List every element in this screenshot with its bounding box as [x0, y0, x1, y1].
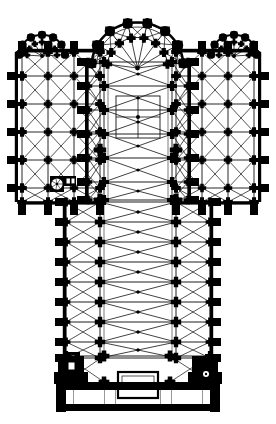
nave-keystone [136, 348, 139, 351]
west-front-wall [56, 382, 220, 390]
pier-core [207, 279, 212, 284]
portal-opening-0 [74, 390, 104, 404]
pier-core [97, 157, 103, 163]
choir-keystone [136, 144, 139, 147]
pier-core [173, 319, 179, 325]
pier-core [225, 157, 230, 162]
pier-core [63, 299, 68, 304]
apse-buttress-cap [122, 18, 132, 28]
south-transept-end-buttress [258, 128, 269, 136]
nave-keystone [136, 210, 139, 213]
north-transept-end-buttress [7, 156, 18, 164]
pier-core [97, 185, 103, 191]
pier-core [63, 339, 68, 344]
pier-core [173, 279, 179, 285]
pier-core [63, 353, 69, 359]
apse-keystone [135, 66, 140, 71]
pier-core [225, 185, 230, 190]
pier-core [219, 47, 223, 51]
pier-core [173, 259, 179, 265]
pier-core [45, 129, 50, 134]
pier-core [207, 299, 212, 304]
pier-core [173, 299, 179, 305]
pier-core [153, 40, 159, 46]
pier-core [207, 219, 212, 224]
south-apse-buttress-block [211, 41, 218, 48]
apse-buttress-cap [105, 26, 115, 36]
stair-turret-north-newel [56, 183, 59, 186]
pier-core [173, 339, 179, 345]
pier-core [173, 49, 179, 55]
pier-core [207, 259, 212, 264]
west-front-plinth [56, 404, 220, 411]
cathedral-plan-canvas [0, 0, 276, 424]
pier-core [251, 199, 257, 205]
pier-core [85, 83, 90, 88]
pier-core [19, 157, 25, 163]
pier-core [245, 47, 249, 51]
pier-core [173, 101, 179, 107]
south-apse-buttress-block [208, 51, 215, 58]
pier-core [207, 353, 213, 359]
nave-keystone [136, 330, 139, 333]
pier-core [185, 107, 190, 112]
pier-core [96, 196, 103, 203]
pier-core [173, 129, 179, 135]
nave-keystone [136, 250, 139, 253]
south-apse-buttress-block [242, 34, 249, 41]
pier-core [97, 279, 103, 285]
pier-core [225, 129, 230, 134]
pier-core [85, 131, 90, 136]
pier-core [47, 42, 51, 46]
pier-core [207, 319, 212, 324]
pier-core [45, 49, 51, 55]
north-apse-keystone [40, 54, 44, 58]
pier-core [199, 199, 205, 205]
south-apse-buttress-block [250, 41, 257, 48]
choir-keystone [136, 189, 139, 192]
north-apse-buttress-block [50, 34, 57, 41]
pier-core [225, 42, 229, 46]
pier-core [25, 53, 29, 57]
choir-keystone [136, 168, 139, 171]
north-apse-buttress-block [28, 34, 35, 41]
pier-core [40, 40, 44, 44]
pier-core [251, 157, 257, 163]
pier-core [55, 53, 59, 57]
pier-core [96, 146, 103, 153]
south-apse-keystone [232, 54, 236, 58]
pier-core [53, 47, 57, 51]
pier-core [97, 73, 103, 79]
pier-core [128, 35, 134, 41]
pier-core [173, 73, 179, 79]
pier-core [27, 47, 31, 51]
pier-core [199, 157, 204, 162]
pier-core [63, 279, 68, 284]
south-apse-buttress-block [231, 31, 238, 38]
pier-core [185, 131, 190, 136]
pier-core [185, 59, 190, 64]
pier-core [199, 49, 205, 55]
portal-opening-2 [172, 390, 202, 404]
pier-core [167, 353, 173, 359]
pier-core [199, 73, 204, 78]
pier-core [199, 185, 204, 190]
south-transept-end-buttress [258, 72, 269, 80]
pier-core [45, 199, 51, 205]
pier-core [169, 83, 175, 89]
pier-core [19, 199, 25, 205]
north-apse-buttress-block [62, 51, 69, 58]
pier-core [97, 239, 103, 245]
pier-core [199, 101, 204, 106]
pier-core [207, 239, 212, 244]
chamber-void [72, 179, 75, 184]
pier-core [117, 40, 123, 46]
apse-buttress-cap [142, 18, 152, 28]
pier-core [225, 101, 230, 106]
pier-core [45, 73, 50, 78]
pier-core [97, 219, 103, 225]
pier-core [19, 101, 25, 107]
pier-core [101, 83, 107, 89]
pier-core [251, 185, 257, 191]
pier-core [247, 53, 251, 57]
